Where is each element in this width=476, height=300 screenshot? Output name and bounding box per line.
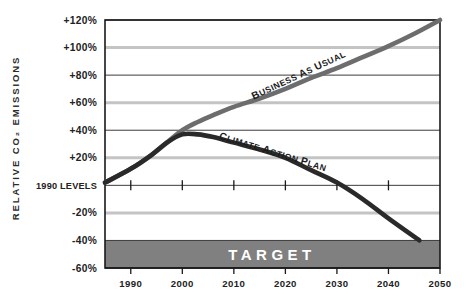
y-axis-tick-label: -60% bbox=[72, 263, 97, 274]
y-axis-tick-label: +20% bbox=[69, 152, 97, 163]
y-axis-tick-label: -40% bbox=[72, 235, 97, 246]
y-axis-tick-label: 1990 LEVELS bbox=[36, 181, 97, 191]
x-axis-tick-label: 2040 bbox=[377, 278, 400, 289]
x-axis-tick-label: 2030 bbox=[325, 278, 348, 289]
y-axis-tick-label: +120% bbox=[63, 15, 97, 26]
x-axis-tick-label: 2020 bbox=[274, 278, 297, 289]
co2-emissions-chart: RELATIVE CO₂ EMISSIONS TARGET +120%+100%… bbox=[0, 0, 476, 300]
x-axis-tick-label: 2050 bbox=[429, 278, 452, 289]
target-band-label: TARGET bbox=[228, 246, 316, 263]
y-axis-tick-label: -20% bbox=[72, 207, 97, 218]
y-axis-tick-label: +60% bbox=[69, 97, 97, 108]
chart-svg: RELATIVE CO₂ EMISSIONS TARGET +120%+100%… bbox=[0, 0, 476, 300]
y-axis-title: RELATIVE CO₂ EMISSIONS bbox=[10, 56, 21, 221]
x-axis-tick-label: 2010 bbox=[222, 278, 245, 289]
y-axis-tick-label: +80% bbox=[69, 70, 97, 81]
x-axis-tick-label: 2000 bbox=[171, 278, 194, 289]
y-axis-tick-label: +100% bbox=[63, 42, 97, 53]
y-axis-tick-label: +40% bbox=[69, 125, 97, 136]
x-axis-tick-label: 1990 bbox=[119, 278, 142, 289]
